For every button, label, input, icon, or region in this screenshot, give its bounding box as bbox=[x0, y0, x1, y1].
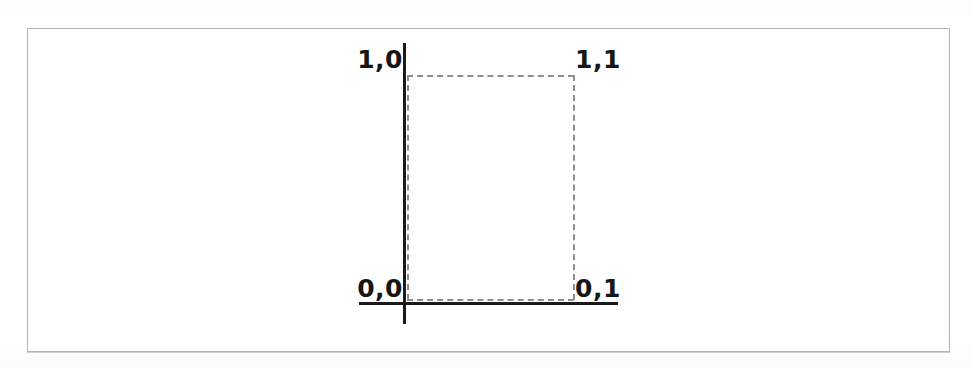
vertex-label-top-right: 1,1 bbox=[575, 46, 659, 74]
vertex-label-bottom-right: 0,1 bbox=[575, 275, 659, 303]
square-bottom-edge bbox=[407, 299, 574, 301]
figure-page: 1,0 1,1 0,0 0,1 bbox=[0, 0, 972, 368]
vertex-label-top-left: 1,0 bbox=[319, 46, 403, 74]
figure-frame: 1,0 1,1 0,0 0,1 bbox=[27, 28, 950, 352]
y-axis-line bbox=[403, 43, 406, 324]
plot-area: 1,0 1,1 0,0 0,1 bbox=[28, 29, 951, 353]
vertex-label-bottom-left: 0,0 bbox=[319, 275, 403, 303]
square-right-edge bbox=[573, 75, 575, 300]
square-top-edge bbox=[407, 75, 574, 77]
square-left-edge bbox=[407, 75, 409, 300]
